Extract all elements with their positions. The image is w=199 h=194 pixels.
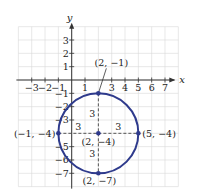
point-left-label: (−1, −4) [14, 128, 55, 139]
point-top-marker [96, 91, 101, 96]
y-axis-label: y [66, 12, 73, 23]
x-axis-label: x [179, 74, 185, 85]
point-center-marker [96, 131, 101, 136]
point-top-label: (2, −1) [95, 57, 129, 68]
point-bottom-label: (2, −7) [83, 175, 117, 186]
grid [18, 27, 178, 187]
y-tick-label: 1 [63, 61, 69, 72]
coordinate-plane-diagram: x y −3−2−1134567321−1−2−3−5−6−7 (2, −4)(… [0, 0, 199, 194]
plot-svg: x y −3−2−1134567321−1−2−3−5−6−7 (2, −4)(… [0, 0, 199, 194]
x-axis-arrow-icon [169, 78, 175, 83]
point-center-label: (2, −4) [82, 136, 116, 147]
x-tick-label: 1 [82, 82, 88, 93]
radius-label-down: 3 [89, 148, 95, 159]
x-tick-label: −2 [38, 82, 52, 93]
point-right-marker [136, 131, 141, 136]
x-tick-label: 3 [109, 82, 115, 93]
point-left-marker [56, 131, 61, 136]
x-tick-label: 5 [135, 82, 141, 93]
axes: x y [16, 12, 185, 189]
y-axis-arrow-icon [69, 23, 74, 29]
x-tick-label: 4 [122, 82, 128, 93]
x-tick-label: 6 [149, 82, 155, 93]
x-tick-label: −3 [25, 82, 39, 93]
y-tick-label: 2 [63, 48, 69, 59]
y-tick-label: −7 [55, 168, 69, 179]
radius-label-up: 3 [89, 108, 95, 119]
point-right-label: (5, −4) [142, 128, 176, 139]
y-tick-label: 3 [63, 35, 69, 46]
radius-label-left: 3 [75, 121, 81, 132]
radius-label-right: 3 [115, 121, 121, 132]
y-tick-label: −1 [55, 88, 69, 99]
x-tick-label: 7 [162, 82, 168, 93]
top-point-leader-line [98, 68, 106, 93]
